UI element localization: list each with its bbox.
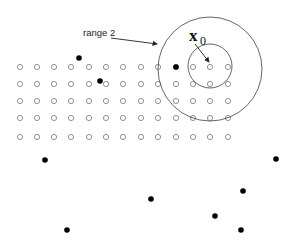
open-point <box>17 64 22 69</box>
open-point <box>207 134 212 139</box>
diagram-canvas: range 2 x 0 <box>0 0 298 249</box>
open-point <box>207 64 212 69</box>
filled-points <box>42 55 279 233</box>
open-point <box>68 81 73 86</box>
open-point <box>34 134 39 139</box>
open-point <box>86 81 91 86</box>
open-point <box>68 98 73 103</box>
open-point <box>173 134 178 139</box>
filled-point <box>42 157 48 163</box>
open-point <box>120 64 125 69</box>
open-point <box>17 81 22 86</box>
open-point <box>68 134 73 139</box>
open-point <box>155 115 160 120</box>
open-point <box>120 115 125 120</box>
range-arrow <box>111 38 157 44</box>
open-point <box>173 98 178 103</box>
open-point <box>155 98 160 103</box>
open-point <box>17 98 22 103</box>
open-point <box>34 81 39 86</box>
open-point <box>17 134 22 139</box>
open-point <box>86 115 91 120</box>
filled-point <box>97 78 103 84</box>
open-point <box>68 64 73 69</box>
open-point <box>34 98 39 103</box>
open-point <box>225 81 230 86</box>
open-point <box>51 115 56 120</box>
open-point <box>34 64 39 69</box>
open-point <box>120 134 125 139</box>
open-point <box>103 134 108 139</box>
open-point <box>207 81 212 86</box>
open-point <box>86 64 91 69</box>
open-point <box>120 81 125 86</box>
filled-point <box>238 227 244 233</box>
open-point <box>225 134 230 139</box>
open-point <box>207 98 212 103</box>
open-point <box>103 81 108 86</box>
open-point <box>173 81 178 86</box>
open-point <box>51 81 56 86</box>
filled-point <box>240 188 246 194</box>
open-point <box>190 134 195 139</box>
open-point <box>138 115 143 120</box>
x0-subscript: 0 <box>200 34 206 48</box>
filled-point <box>64 227 70 233</box>
filled-point <box>76 55 82 61</box>
open-point <box>103 115 108 120</box>
open-point <box>225 64 230 69</box>
open-point <box>17 115 22 120</box>
open-point <box>86 134 91 139</box>
open-point <box>190 98 195 103</box>
open-point <box>51 64 56 69</box>
open-point <box>190 64 195 69</box>
open-point <box>207 115 212 120</box>
filled-point <box>148 196 154 202</box>
open-point <box>51 134 56 139</box>
filled-point <box>173 64 179 70</box>
open-point <box>138 98 143 103</box>
filled-point <box>212 213 218 219</box>
range-label: range 2 <box>83 27 115 38</box>
open-point <box>138 64 143 69</box>
open-point <box>103 64 108 69</box>
open-point <box>120 98 125 103</box>
open-point-grid <box>17 64 230 139</box>
open-point <box>86 98 91 103</box>
open-point <box>138 134 143 139</box>
open-point <box>34 115 39 120</box>
open-point <box>155 134 160 139</box>
open-point <box>225 98 230 103</box>
open-point <box>51 98 56 103</box>
open-point <box>68 115 73 120</box>
filled-point <box>273 156 279 162</box>
x0-label: x <box>189 26 198 45</box>
open-point <box>173 115 178 120</box>
open-point <box>138 81 143 86</box>
open-point <box>103 98 108 103</box>
